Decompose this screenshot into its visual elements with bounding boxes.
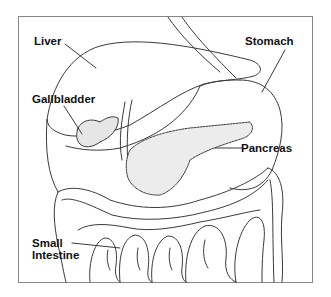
descending-colon	[268, 168, 283, 282]
liver-leader-line	[65, 44, 96, 68]
bile-duct-1	[120, 102, 125, 160]
intestine-loop-4	[186, 225, 236, 282]
stomach-leader-line	[262, 50, 285, 92]
label-small-intestine-line2: Intestine	[32, 249, 92, 261]
pancreas-shape	[126, 122, 252, 195]
label-liver: Liver	[34, 35, 62, 47]
intestine-upper-edge	[78, 210, 260, 230]
label-stomach: Stomach	[245, 35, 294, 47]
liver-lower-edge	[46, 120, 58, 192]
intestine-fold-2	[137, 248, 140, 270]
liver-outline	[47, 42, 260, 136]
intestine-fold-3	[169, 248, 172, 270]
gallbladder-shape	[77, 117, 119, 147]
label-gallbladder: Gallbladder	[32, 93, 95, 105]
intestine-fold-4	[204, 240, 208, 268]
intestine-fold-1	[107, 250, 110, 270]
label-pancreas: Pancreas	[241, 142, 292, 154]
descending-colon-inner	[270, 180, 274, 282]
intestine-loop-5	[235, 217, 265, 282]
gallbladder-leader-line	[64, 106, 82, 134]
label-small-intestine-line1: Small	[32, 237, 92, 249]
digestive-organs-diagram: Liver Gallbladder Stomach Pancreas Small…	[0, 0, 331, 297]
intestine-loop-1	[90, 238, 120, 282]
label-small-intestine: Small Intestine	[32, 237, 92, 261]
intestine-loop-2	[120, 235, 152, 282]
